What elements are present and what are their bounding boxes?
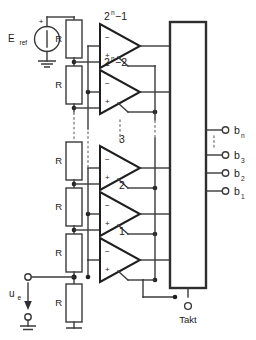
output-label-subscript: 1 xyxy=(241,193,245,200)
encoder-block xyxy=(170,22,206,299)
resistor-label: R xyxy=(55,201,62,212)
signal-bus-node xyxy=(86,275,91,280)
comparator-plus-input-label: + xyxy=(105,173,110,182)
output-terminal xyxy=(222,188,228,194)
circuit-diagram-canvas: + E ref R R R xyxy=(0,0,256,340)
resistor-body xyxy=(66,142,82,180)
resistor-body xyxy=(66,188,82,226)
comparator-minus-input-label: − xyxy=(105,79,110,88)
comparator-clock-stub xyxy=(118,103,128,112)
comparator-label: 2 xyxy=(119,179,125,191)
clock-terminal: Takt xyxy=(179,303,197,325)
clock-bus xyxy=(143,66,157,282)
output-terminal xyxy=(222,127,228,133)
output-label-subscript: 3 xyxy=(241,157,245,164)
input-label-subscript: e xyxy=(18,294,22,301)
resistor-label: R xyxy=(55,297,62,308)
resistor-label: R xyxy=(55,247,62,258)
input-source-ue: u e xyxy=(9,274,74,330)
comparator-label: 1 xyxy=(119,225,125,237)
output-label: b xyxy=(234,167,240,179)
source-polarity-label: + xyxy=(39,17,44,26)
resistor-ladder: R R R R R xyxy=(55,17,100,328)
comparator-minus-input-label: − xyxy=(105,33,110,42)
output-terminal xyxy=(222,152,228,158)
source-ground-icon xyxy=(38,61,56,67)
comparator-plus-input-label: + xyxy=(105,97,110,106)
takt-terminal xyxy=(185,303,192,310)
input-ground-icon xyxy=(20,326,36,330)
output-label: b xyxy=(234,149,240,161)
comparator-plus-input-label: + xyxy=(105,219,110,228)
comparator-minus-input-label: − xyxy=(105,155,110,164)
input-label: u xyxy=(9,288,15,299)
comparator-label-suffix: −1 xyxy=(115,10,127,22)
output-label: b xyxy=(234,185,240,197)
comparator-label: 2 xyxy=(104,10,110,22)
input-signal-bus xyxy=(86,46,100,279)
input-bottom-terminal xyxy=(25,314,31,320)
comparator-2n-2: − + 2 n −2 xyxy=(100,55,170,114)
source-label: E xyxy=(8,33,15,44)
comparator-plus-input-label: + xyxy=(105,265,110,274)
reference-voltage-source: + E ref xyxy=(8,17,74,67)
output-label: b xyxy=(234,124,240,136)
encoder-clock-node xyxy=(173,295,178,300)
takt-label: Takt xyxy=(179,314,197,325)
comparator-triangle xyxy=(100,238,140,282)
resistor-label: R xyxy=(55,79,62,90)
output-label-subscript: 2 xyxy=(241,175,245,182)
resistor-body xyxy=(66,234,82,272)
output-bits: b n b 3 b 2 b 1 xyxy=(206,124,245,200)
comparator-label: 2 xyxy=(104,56,110,68)
comparator-1: − + 1 xyxy=(100,225,175,297)
resistor-label: R xyxy=(55,155,62,166)
comparator-3: − + 3 xyxy=(100,133,170,190)
down-arrow-icon xyxy=(24,301,32,310)
output-label-subscript: n xyxy=(241,132,245,139)
output-terminal xyxy=(222,170,228,176)
comparator-triangle xyxy=(100,70,140,114)
comparator-minus-input-label: − xyxy=(105,201,110,210)
source-label-subscript: ref xyxy=(20,39,28,46)
comparator-clock-stub xyxy=(118,271,128,280)
encoder-box xyxy=(170,22,206,288)
resistor-label: R xyxy=(55,33,62,44)
resistor-body xyxy=(66,284,82,322)
input-top-terminal xyxy=(25,274,31,280)
comparator-minus-input-label: − xyxy=(105,247,110,256)
resistor-body xyxy=(66,66,82,104)
comparator-label-suffix: −2 xyxy=(115,56,127,68)
resistor-body xyxy=(66,20,82,58)
